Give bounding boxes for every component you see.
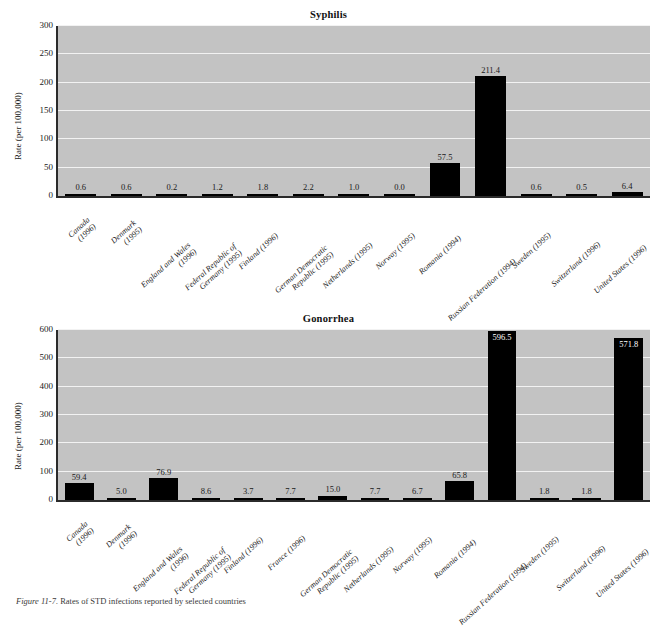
y-axis-tick-400: 400: [40, 381, 54, 390]
bar-cell: 1.8: [523, 330, 565, 500]
bar-cell: 7.7: [269, 330, 311, 500]
bar-cell: 0.5: [559, 26, 605, 196]
bar[interactable]: 211.4: [475, 76, 506, 196]
bar-cell: 2.2: [286, 26, 332, 196]
bar[interactable]: 0.0: [384, 194, 415, 197]
bar-cell: 5.0: [100, 330, 142, 500]
bar-value-label: 76.9: [156, 468, 171, 477]
bar[interactable]: 8.6: [192, 498, 221, 501]
bar-value-label: 59.4: [72, 473, 87, 482]
x-axis-tick-label: France (1996): [265, 534, 306, 573]
bar-value-label: 7.7: [285, 487, 296, 496]
bar-cell: 6.7: [396, 330, 438, 500]
y-axis-tick-100: 100: [40, 134, 54, 143]
bar[interactable]: 7.7: [361, 498, 390, 501]
bar[interactable]: 57.5: [430, 163, 461, 196]
bar[interactable]: 1.8: [530, 498, 559, 501]
bar-value-label: 1.2: [212, 183, 223, 192]
bar[interactable]: 76.9: [149, 478, 178, 500]
bar[interactable]: 65.8: [445, 481, 474, 500]
y-axis-tick-300: 300: [40, 410, 54, 419]
bar-value-label: 1.8: [539, 487, 550, 496]
bar[interactable]: 0.6: [111, 194, 142, 197]
bar[interactable]: 1.8: [572, 498, 601, 501]
bar[interactable]: 1.2: [202, 194, 233, 197]
figure-number: Figure 11-7.: [16, 596, 58, 606]
y-axis-tick-100: 100: [40, 466, 54, 475]
bar-cell: 1.8: [240, 26, 286, 196]
bar[interactable]: 0.5: [566, 194, 597, 197]
bar-cell: 0.6: [513, 26, 559, 196]
x-axis-tick-label: Canada (1996): [65, 519, 97, 550]
bar[interactable]: 2.2: [293, 194, 324, 197]
bar-cell: 1.8: [565, 330, 607, 500]
bar[interactable]: 0.2: [156, 194, 187, 197]
bar-cell: 0.2: [149, 26, 195, 196]
x-axis-tick-label: Norway (1995): [373, 231, 416, 271]
bar-value-label: 596.5: [492, 333, 511, 342]
x-axis-tick-label: United States (1996): [592, 243, 649, 295]
x-axis-tick-label: Sweden (1995): [510, 231, 552, 271]
bar-value-label: 6.4: [622, 182, 633, 191]
y-axis-tick-150: 150: [40, 106, 54, 115]
bar-value-label: 1.8: [581, 487, 592, 496]
bar-value-label: 0.0: [394, 183, 405, 192]
bar-cell: 15.0: [312, 330, 354, 500]
bar-series-gonorrhea: 59.45.076.98.63.77.715.07.76.765.8596.51…: [58, 330, 650, 500]
x-axis-tick-label: Romania (1994): [432, 538, 478, 581]
y-axis-tick-200: 200: [40, 77, 54, 86]
bar-value-label: 2.2: [303, 183, 314, 192]
bar[interactable]: 3.7: [234, 498, 263, 501]
x-axis-tick-label: Canada (1996): [66, 215, 98, 246]
y-axis-tick-300: 300: [40, 21, 54, 30]
chart-title-syphilis: Syphilis: [0, 9, 657, 20]
plot-area-gonorrhea: 0100200300400500600 59.45.076.98.63.77.7…: [56, 330, 650, 502]
x-axis-tick-label: Russian Federation (1994): [457, 561, 529, 627]
bar-cell: 65.8: [439, 330, 481, 500]
chart-syphilis: Syphilis Rate (per 100,000) 050100150200…: [0, 0, 657, 300]
bar-cell: 0.6: [58, 26, 104, 196]
bar[interactable]: 15.0: [318, 496, 347, 500]
x-axis-tick-label: Denmark (1996): [105, 522, 140, 556]
bar[interactable]: 1.0: [338, 194, 369, 197]
x-axis-tick-label: United States (1996): [594, 547, 651, 599]
bar-value-label: 0.2: [167, 183, 178, 192]
y-axis-tick-600: 600: [40, 325, 54, 334]
bar[interactable]: 6.7: [403, 498, 432, 501]
bar[interactable]: 1.8: [247, 194, 278, 197]
bar[interactable]: 571.8: [614, 338, 643, 500]
x-axis-tick-label: German Democratic Republic (1995): [274, 243, 337, 302]
bar-value-label: 571.8: [619, 340, 638, 349]
bar-value-label: 0.5: [576, 183, 587, 192]
bar-cell: 6.4: [604, 26, 650, 196]
bar-cell: 0.0: [377, 26, 423, 196]
bar-cell: 1.2: [195, 26, 241, 196]
plot-area-syphilis: 050100150200250300 0.60.60.21.21.82.21.0…: [56, 26, 650, 198]
bar-cell: 1.0: [331, 26, 377, 196]
figure-caption-text: Rates of STD infections reported by sele…: [60, 596, 246, 606]
x-axis-tick-label: Switzerland (1996): [549, 240, 602, 289]
bar-value-label: 0.6: [531, 183, 542, 192]
y-axis-label-gonorrhea: Rate (per 100,000): [13, 402, 23, 470]
bar[interactable]: 7.7: [276, 498, 305, 501]
x-axis-tick-label: Sweden (1995): [519, 535, 561, 575]
y-axis-tick-500: 500: [40, 353, 54, 362]
y-axis-tick-250: 250: [40, 49, 54, 58]
x-axis-tick-label: Denmark (1995): [109, 218, 144, 252]
bar[interactable]: 0.6: [65, 194, 96, 197]
bar[interactable]: 0.6: [521, 194, 552, 197]
bar-cell: 76.9: [143, 330, 185, 500]
x-axis-tick-label: Norway (1995): [391, 535, 434, 575]
bar-value-label: 1.0: [349, 183, 360, 192]
y-axis-tick-50: 50: [44, 162, 53, 171]
bar-value-label: 0.6: [75, 183, 86, 192]
bar-value-label: 57.5: [438, 153, 453, 162]
y-axis-tick-0: 0: [49, 495, 54, 504]
bar[interactable]: 6.4: [612, 192, 643, 196]
bar-value-label: 6.7: [412, 487, 423, 496]
bar[interactable]: 5.0: [107, 498, 136, 501]
bar[interactable]: 59.4: [65, 483, 94, 500]
y-axis-label-syphilis: Rate (per 100,000): [13, 92, 23, 160]
chart-title-gonorrhea: Gonorrhea: [0, 313, 657, 324]
bar[interactable]: 596.5: [488, 331, 517, 500]
